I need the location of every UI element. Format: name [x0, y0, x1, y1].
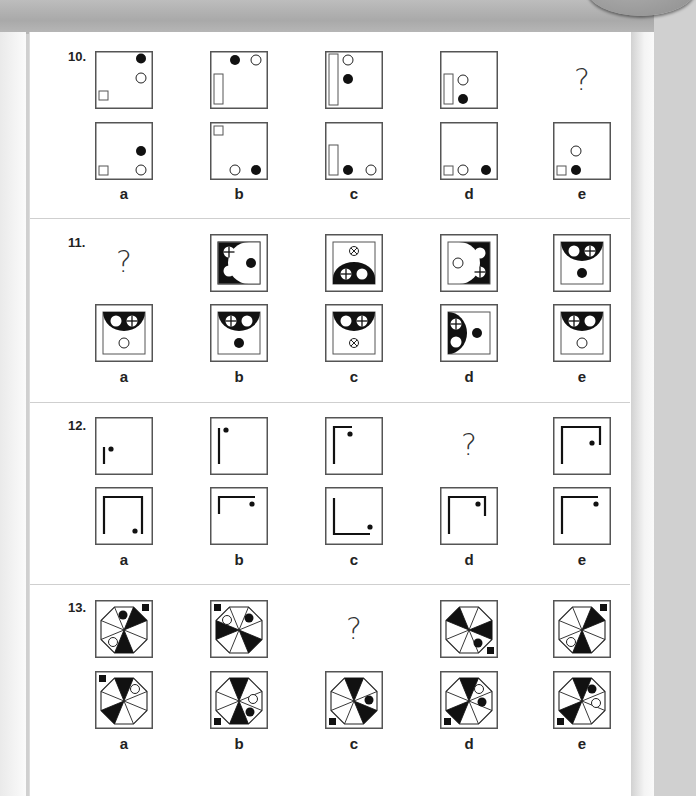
q10-option-c[interactable] — [325, 122, 383, 180]
background-top — [0, 0, 654, 34]
q13-option-d[interactable] — [440, 671, 498, 729]
question-mark: ? — [553, 51, 611, 109]
q13-option-b[interactable] — [210, 671, 268, 729]
page-right-shade — [630, 32, 654, 796]
section-divider — [30, 402, 630, 403]
option-label: b — [210, 185, 268, 202]
option-label: b — [210, 368, 268, 385]
q10-option-a[interactable] — [95, 122, 153, 180]
question-mark: ? — [95, 233, 153, 291]
question-number: 11. — [68, 235, 85, 250]
q11-top-4 — [440, 234, 498, 292]
section-divider — [30, 218, 630, 219]
q13-top-5 — [553, 600, 611, 658]
q11-option-d[interactable] — [440, 304, 498, 362]
option-label: b — [210, 551, 268, 568]
q13-top-2 — [210, 600, 268, 658]
option-label: c — [325, 368, 383, 385]
question-mark: ? — [325, 600, 383, 658]
option-label: d — [440, 185, 498, 202]
q13-option-a[interactable] — [95, 671, 153, 729]
q10-top-3 — [325, 51, 383, 109]
q12-top-1 — [95, 417, 153, 475]
question-number: 12. — [68, 418, 86, 433]
page-left-shade — [0, 32, 26, 796]
question-mark: ? — [440, 416, 498, 474]
q11-top-5 — [553, 234, 611, 292]
q12-option-d[interactable] — [440, 487, 498, 545]
q12-option-a[interactable] — [95, 487, 153, 545]
q11-option-e[interactable] — [553, 304, 611, 362]
q12-top-2 — [210, 417, 268, 475]
q12-option-b[interactable] — [210, 487, 268, 545]
q11-option-b[interactable] — [210, 304, 268, 362]
option-label: c — [325, 735, 383, 752]
q13-top-4 — [440, 600, 498, 658]
q13-top-1 — [95, 600, 153, 658]
option-label: e — [553, 735, 611, 752]
question-number: 10. — [68, 49, 86, 64]
q10-top-4 — [440, 51, 498, 109]
q10-option-e[interactable] — [553, 122, 611, 180]
q10-top-1 — [95, 51, 153, 109]
question-number: 13. — [68, 600, 86, 615]
option-label: c — [325, 185, 383, 202]
q10-top-2 — [210, 51, 268, 109]
option-label: e — [553, 551, 611, 568]
option-label: a — [95, 551, 153, 568]
q11-option-a[interactable] — [95, 304, 153, 362]
q10-option-d[interactable] — [440, 122, 498, 180]
option-label: e — [553, 185, 611, 202]
option-label: d — [440, 368, 498, 385]
option-label: d — [440, 551, 498, 568]
q11-top-2 — [210, 234, 268, 292]
q12-option-e[interactable] — [553, 487, 611, 545]
option-label: d — [440, 735, 498, 752]
q12-top-5 — [553, 417, 611, 475]
q13-option-c[interactable] — [325, 671, 383, 729]
option-label: a — [95, 735, 153, 752]
option-label: a — [95, 185, 153, 202]
option-label: e — [553, 368, 611, 385]
section-divider — [30, 584, 630, 585]
q13-option-e[interactable] — [553, 671, 611, 729]
q10-option-b[interactable] — [210, 122, 268, 180]
option-label: a — [95, 368, 153, 385]
option-label: c — [325, 551, 383, 568]
q11-option-c[interactable] — [325, 304, 383, 362]
q11-top-3 — [325, 234, 383, 292]
q12-top-3 — [325, 417, 383, 475]
option-label: b — [210, 735, 268, 752]
q12-option-c[interactable] — [325, 487, 383, 545]
